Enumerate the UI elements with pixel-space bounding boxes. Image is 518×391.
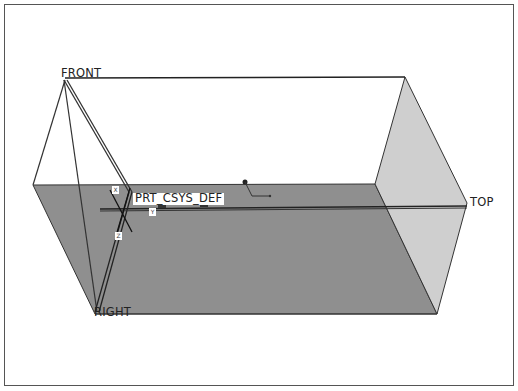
top-datum-plane[interactable]: [33, 184, 437, 314]
front-datum-plane-edge[interactable]: [33, 80, 65, 185]
leader-end: [269, 195, 271, 197]
csys-label[interactable]: PRT_CSYS_DEF: [133, 193, 224, 205]
front-plane-edge-upper-a: [64, 80, 129, 192]
front-plane-top-edge: [65, 77, 405, 78]
csys-axis-y-tag: Y: [149, 208, 156, 216]
csys-axis-x-tag: X: [112, 186, 119, 194]
top-datum-label[interactable]: TOP: [470, 197, 494, 209]
front-plane-edge-upper-b: [67, 80, 132, 192]
model-scene[interactable]: [0, 0, 518, 391]
marker: [158, 205, 166, 208]
right-datum-label[interactable]: RIGHT: [94, 307, 131, 319]
front-datum-label[interactable]: FRONT: [61, 68, 101, 80]
csys-axis-z-tag: Z: [115, 232, 122, 240]
